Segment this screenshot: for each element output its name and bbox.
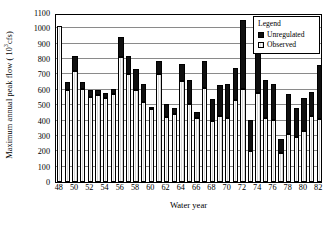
y-axis-title-exponent: 3: [3, 44, 9, 47]
legend-label-unregulated: Unregulated: [267, 30, 305, 40]
bar-segment-observed: [217, 116, 222, 182]
bar-segment-unregulated: [294, 108, 299, 138]
bar-segment-observed: [156, 74, 161, 182]
bar-segment-unregulated: [95, 90, 100, 95]
bar-segment-unregulated: [88, 90, 93, 97]
bar-segment-unregulated: [309, 92, 314, 116]
bar-column: [172, 108, 177, 182]
bar-column: [88, 90, 93, 182]
x-axis-tick-label: 56: [116, 184, 124, 192]
bar-segment-unregulated: [118, 37, 123, 57]
bar-column: [278, 139, 283, 182]
x-axis-tick-label: 74: [253, 184, 261, 192]
bar-column: [179, 64, 184, 182]
bar-segment-observed: [317, 119, 322, 182]
bar-column: [271, 84, 276, 182]
y-axis-tick-label: 600: [38, 87, 50, 95]
bar-column: [126, 56, 131, 182]
x-axis-tick-label: 54: [100, 184, 108, 192]
bar-column: [187, 80, 192, 182]
y-axis-tick-label: 300: [38, 133, 50, 141]
bar-segment-observed: [194, 118, 199, 182]
bar-segment-observed: [88, 97, 93, 182]
bar-column: [80, 82, 85, 182]
bar-segment-observed: [202, 88, 207, 182]
x-axis-tick-label: 72: [238, 184, 246, 192]
bar-segment-unregulated: [179, 64, 184, 81]
x-axis-tick-labels: 485052545658606264666870727476788082: [55, 184, 322, 197]
bar-column: [217, 85, 222, 182]
bar-segment-unregulated: [278, 139, 283, 153]
legend-label-observed: Observed: [267, 40, 296, 50]
x-axis-tick-label: 64: [177, 184, 185, 192]
x-axis-tick-label: 66: [192, 184, 200, 192]
bar-segment-unregulated: [286, 94, 291, 134]
bar-segment-observed: [164, 117, 169, 182]
bar-segment-unregulated: [202, 61, 207, 87]
bar-column: [103, 93, 108, 182]
bar-column: [225, 84, 230, 182]
legend-title: Legend: [258, 19, 316, 29]
bar-column: [240, 20, 245, 182]
bar-column: [301, 98, 306, 182]
bar-segment-unregulated: [248, 120, 253, 151]
bar-column: [57, 26, 62, 182]
x-axis-tick-label: 68: [207, 184, 215, 192]
bar-segment-observed: [57, 26, 62, 182]
bar-segment-unregulated: [72, 56, 77, 71]
y-axis-tick-label: 800: [38, 56, 50, 64]
x-axis-tick-label: 80: [299, 184, 307, 192]
bar-column: [164, 104, 169, 182]
bar-column: [194, 112, 199, 182]
legend-item-unregulated: Unregulated: [258, 30, 316, 40]
bar-segment-observed: [210, 121, 215, 182]
bar-segment-observed: [65, 90, 70, 182]
y-axis-title: Maximum annual peak flow ( 103cfs): [0, 0, 18, 190]
bar-column: [118, 37, 123, 182]
bar-segment-observed: [240, 89, 245, 182]
bar-column: [149, 107, 154, 182]
bar-segment-observed: [225, 118, 230, 182]
bar-segment-observed: [111, 94, 116, 182]
bar-segment-observed: [255, 93, 260, 182]
bar-column: [111, 89, 116, 182]
y-axis-tick-label: 1100: [34, 10, 50, 18]
bar-segment-unregulated: [133, 69, 138, 90]
legend: Legend Unregulated Observed: [253, 16, 320, 54]
bar-column: [263, 80, 268, 182]
x-axis-tick-label: 82: [314, 184, 322, 192]
y-axis-tick-label: 1000: [34, 25, 50, 33]
bar-segment-unregulated: [103, 93, 108, 98]
y-axis-tick-label: 500: [38, 102, 50, 110]
x-axis-tick-label: 78: [284, 184, 292, 192]
bar-segment-unregulated: [149, 107, 154, 109]
bar-segment-observed: [278, 153, 283, 182]
x-axis-tick-label: 62: [162, 184, 170, 192]
x-axis-tick-label: 70: [223, 184, 231, 192]
bar-segment-unregulated: [141, 84, 146, 102]
bar-column: [294, 108, 299, 183]
bar-segment-unregulated: [217, 85, 222, 116]
x-axis-tick-label: 76: [268, 184, 276, 192]
bar-segment-unregulated: [301, 98, 306, 130]
bar-segment-unregulated: [65, 82, 70, 90]
bar-segment-observed: [118, 57, 123, 182]
y-axis-tick-label: 0: [46, 179, 50, 187]
bar-segment-unregulated: [156, 61, 161, 75]
y-axis-tick-label: 900: [38, 41, 50, 49]
y-axis-title-suffix: cfs): [5, 31, 14, 44]
bar-segment-observed: [248, 151, 253, 182]
y-axis-title-prefix: Maximum annual peak flow ( 10: [5, 47, 14, 159]
bar-column: [317, 65, 322, 182]
bar-segment-observed: [149, 109, 154, 182]
bar-segment-observed: [301, 131, 306, 182]
bar-column: [141, 84, 146, 182]
legend-swatch-observed-icon: [258, 42, 264, 48]
x-axis-tick-label: 52: [85, 184, 93, 192]
bar-column: [309, 92, 314, 182]
y-axis-tick-label: 400: [38, 117, 50, 125]
bar-segment-unregulated: [164, 104, 169, 116]
x-axis-tick-label: 50: [70, 184, 78, 192]
bar-column: [248, 120, 253, 182]
bar-segment-observed: [294, 137, 299, 182]
